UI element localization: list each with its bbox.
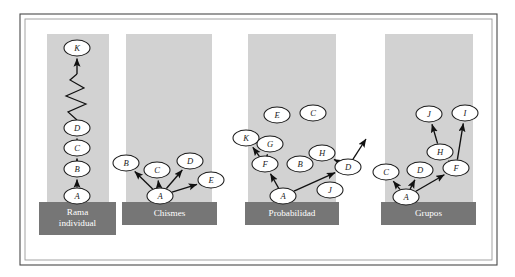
node-label-chismes-D: D (186, 156, 194, 166)
node-label-probabilidad-B: B (297, 159, 303, 169)
node-probabilidad-H: H (309, 145, 335, 161)
panel-probabilidad: ProbabilidadAFKGECBHDJ (233, 34, 366, 225)
node-grupos-C: C (373, 164, 399, 180)
node-grupos-F: F (443, 160, 469, 176)
panel-grupos: GruposACDFHJI (373, 34, 478, 225)
node-label-probabilidad-G: G (267, 139, 274, 149)
node-probabilidad-K: K (233, 130, 259, 146)
node-rama-individual-D: D (64, 120, 90, 136)
node-grupos-J: J (416, 106, 442, 122)
node-chismes-B: B (113, 155, 139, 171)
node-label-grupos-D: D (416, 165, 424, 175)
node-probabilidad-E: E (264, 107, 290, 123)
panel-label-probabilidad: Probabilidad (269, 208, 316, 218)
node-label-probabilidad-C: C (310, 108, 316, 118)
node-probabilidad-B: B (287, 156, 313, 172)
node-label-rama-individual-C: C (74, 143, 80, 153)
node-rama-individual-A: A (64, 188, 90, 204)
node-probabilidad-D: D (335, 159, 361, 175)
node-grupos-H: H (427, 144, 453, 160)
node-label-chismes-E: E (207, 175, 214, 185)
node-label-probabilidad-H: H (318, 148, 326, 158)
node-chismes-E: E (198, 172, 224, 188)
node-label-grupos-H: H (436, 147, 444, 157)
node-chismes-D: D (177, 153, 203, 169)
node-grupos-I: I (452, 105, 478, 121)
panel-label-grupos: Grupos (415, 208, 442, 218)
node-label-rama-individual-A: A (73, 191, 80, 201)
node-probabilidad-J: J (317, 182, 343, 198)
node-grupos-D: D (407, 162, 433, 178)
node-label-chismes-A: A (156, 191, 163, 201)
node-probabilidad-G: G (257, 136, 283, 152)
node-chismes-A: A (147, 188, 173, 204)
diagram-canvas: RamaindividualABCDKChismesABCDEProbabili… (0, 0, 515, 277)
node-label-rama-individual-B: B (74, 164, 80, 174)
node-label-probabilidad-E: E (273, 110, 280, 120)
edge-probabilidad-D-open (353, 139, 366, 159)
node-label-chismes-B: B (123, 158, 129, 168)
node-chismes-C: C (144, 162, 170, 178)
node-label-rama-individual-D: D (73, 123, 81, 133)
node-probabilidad-F: F (252, 156, 278, 172)
figure-root: RamaindividualABCDKChismesABCDEProbabili… (0, 0, 515, 277)
panel-rama-individual: RamaindividualABCDK (39, 34, 116, 235)
node-rama-individual-K: K (64, 40, 90, 56)
edge-chismes-A-to-C (158, 180, 159, 187)
panel-label-rama-individual: individual (59, 218, 97, 228)
node-label-grupos-F: F (452, 163, 459, 173)
node-label-chismes-C: C (154, 165, 160, 175)
node-rama-individual-C: C (64, 140, 90, 156)
node-rama-individual-B: B (64, 161, 90, 177)
node-label-probabilidad-D: D (344, 162, 352, 172)
node-label-probabilidad-F: F (261, 159, 268, 169)
node-probabilidad-C: C (300, 105, 326, 121)
node-label-probabilidad-A: A (279, 191, 286, 201)
node-probabilidad-A: A (270, 188, 296, 204)
panel-chismes: ChismesABCDE (113, 34, 224, 225)
panel-label-rama-individual: Rama (67, 207, 88, 217)
node-label-grupos-A: A (402, 192, 409, 202)
node-label-grupos-C: C (383, 167, 389, 177)
panel-label-chismes: Chismes (154, 208, 186, 218)
node-grupos-A: A (393, 189, 419, 205)
panels-group: RamaindividualABCDKChismesABCDEProbabili… (39, 34, 478, 235)
